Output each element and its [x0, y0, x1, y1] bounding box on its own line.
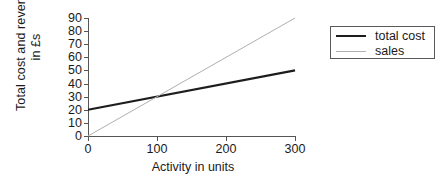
y-tick-label: 10: [68, 116, 82, 130]
y-axis-title-line1: Total cost and revenue: [14, 0, 28, 111]
plot-area: 0102030405060708090 0100200300: [88, 18, 295, 136]
x-tick-label: 300: [285, 142, 306, 156]
series-lines: [88, 18, 295, 136]
legend-label-total-cost: total cost: [375, 29, 425, 43]
y-tick-label: 50: [68, 63, 82, 77]
y-tick-label: 70: [68, 37, 82, 51]
x-tick-label: 200: [216, 142, 237, 156]
x-tick-mark: [226, 136, 227, 141]
x-tick-mark: [157, 136, 158, 141]
y-tick-label: 90: [68, 11, 82, 25]
chart-figure: Total cost and revenue in £s 01020304050…: [0, 0, 444, 187]
legend-item-total-cost: total cost: [336, 28, 425, 44]
x-axis-title: Activity in units: [88, 160, 298, 174]
y-tick-label: 20: [68, 103, 82, 117]
x-tick-mark: [295, 136, 296, 141]
chart-legend: total cost sales: [330, 26, 435, 59]
y-tick-label: 0: [75, 129, 82, 143]
legend-item-sales: sales: [336, 43, 404, 59]
x-tick-label: 0: [85, 142, 92, 156]
y-axis-title: Total cost and revenue in £s: [14, 0, 44, 122]
y-tick-label: 30: [68, 90, 82, 104]
legend-label-sales: sales: [375, 44, 404, 58]
x-axis-line: [88, 136, 296, 137]
y-tick-label: 80: [68, 24, 82, 38]
x-tick-label: 100: [147, 142, 168, 156]
x-tick-mark: [88, 136, 89, 141]
y-tick-label: 60: [68, 50, 82, 64]
series-line-total-cost: [88, 70, 295, 109]
y-tick-label: 40: [68, 77, 82, 91]
y-axis-title-line2: in £s: [29, 0, 44, 122]
